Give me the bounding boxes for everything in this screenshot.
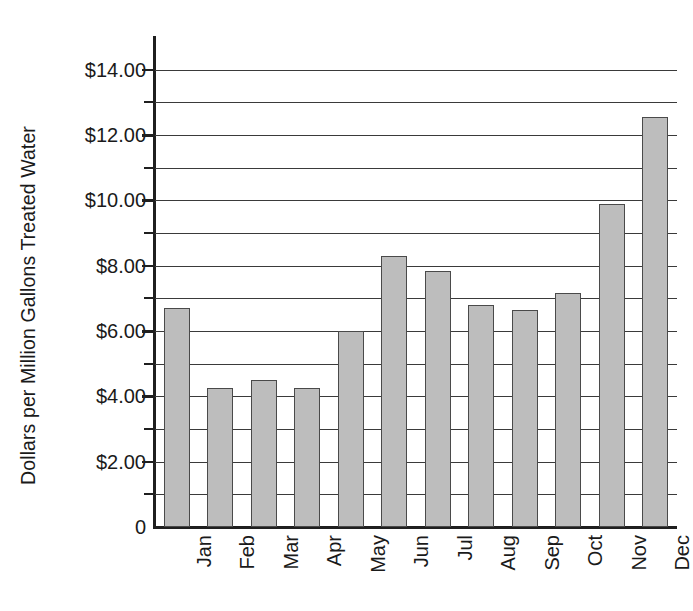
- x-axis-tick-label-feb: Feb: [237, 535, 257, 569]
- y-axis-tick: [144, 232, 155, 234]
- y-axis-tick-label: $10.00: [58, 190, 146, 210]
- bar-oct: [555, 293, 581, 527]
- y-axis-tick: [144, 297, 155, 299]
- y-axis-tick-label: 0: [58, 517, 146, 537]
- y-axis-tick-label: $2.00: [58, 452, 146, 472]
- y-axis-tick-label: $12.00: [58, 125, 146, 145]
- x-axis-tick-label-jan: Jan: [194, 535, 214, 567]
- y-axis-tick: [142, 69, 155, 72]
- x-axis-tick-label-sep: Sep: [542, 535, 562, 571]
- bar-sep: [512, 310, 538, 527]
- y-axis-tick: [142, 134, 155, 137]
- y-axis-tick: [144, 493, 155, 495]
- bar-jan: [164, 308, 190, 527]
- bar-nov: [599, 204, 625, 527]
- bar-chart: Dollars per Million Gallons Treated Wate…: [0, 0, 693, 611]
- x-axis-tick-label-jun: Jun: [411, 535, 431, 567]
- y-axis-tick-label: $8.00: [58, 256, 146, 276]
- gridline: [155, 200, 677, 201]
- gridline: [155, 70, 677, 71]
- y-axis-tick: [144, 101, 155, 103]
- x-axis-tick-labels: JanFebMarAprMayJunJulAugSepOctNovDec: [155, 527, 677, 611]
- y-axis-tick: [144, 428, 155, 430]
- x-axis-tick-label-apr: Apr: [324, 535, 344, 566]
- y-axis-tick: [142, 330, 155, 333]
- y-axis-tick: [142, 395, 155, 398]
- y-axis-tick-labels: 0$2.00$4.00$6.00$8.00$10.00$12.00$14.00: [58, 0, 146, 611]
- x-axis-tick-label-jul: Jul: [455, 535, 475, 561]
- gridline: [155, 135, 677, 136]
- y-axis-tick: [142, 461, 155, 464]
- bar-feb: [207, 388, 233, 527]
- bar-may: [338, 331, 364, 527]
- gridline: [155, 168, 677, 169]
- y-axis-tick-label: $4.00: [58, 386, 146, 406]
- bar-apr: [294, 388, 320, 527]
- bar-jul: [425, 271, 451, 527]
- y-axis-tick-label: $6.00: [58, 321, 146, 341]
- bar-jun: [381, 256, 407, 527]
- bar-aug: [468, 305, 494, 527]
- x-axis-tick-label-dec: Dec: [672, 535, 692, 571]
- x-axis-tick-label-aug: Aug: [498, 535, 518, 571]
- plot-area: [155, 37, 677, 527]
- y-axis-tick-label: $14.00: [58, 60, 146, 80]
- y-axis-tick: [144, 363, 155, 365]
- gridline: [155, 102, 677, 103]
- y-axis-tick: [142, 265, 155, 268]
- y-axis-tick: [144, 167, 155, 169]
- bar-dec: [642, 117, 668, 527]
- y-axis-title: Dollars per Million Gallons Treated Wate…: [0, 0, 56, 611]
- x-axis-tick-label-mar: Mar: [281, 535, 301, 569]
- bar-mar: [251, 380, 277, 527]
- x-axis-tick-label-oct: Oct: [585, 535, 605, 566]
- x-axis-tick-label-nov: Nov: [629, 535, 649, 571]
- x-axis-tick-label-may: May: [368, 535, 388, 573]
- y-axis-tick: [142, 199, 155, 202]
